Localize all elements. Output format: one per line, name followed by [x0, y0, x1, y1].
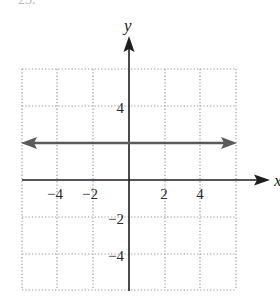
coordinate-plane-figure: 23. x y −4 −2 2 4 4 −2 −4	[0, 0, 280, 305]
x-tick-label: −4	[47, 186, 63, 202]
x-tick-label: 4	[196, 186, 204, 202]
x-tick-labels: −4 −2 2 4	[47, 186, 204, 202]
y-tick-label: 4	[117, 100, 125, 116]
x-tick-label: −2	[82, 186, 98, 202]
y-tick-label: −4	[108, 248, 124, 264]
y-tick-label: −2	[108, 211, 124, 227]
x-tick-label: 2	[160, 186, 168, 202]
x-axis-label: x	[273, 171, 280, 190]
y-axis-label: y	[122, 16, 132, 35]
y-tick-labels: 4 −2 −4	[108, 100, 124, 264]
problem-number: 23.	[18, 0, 36, 7]
